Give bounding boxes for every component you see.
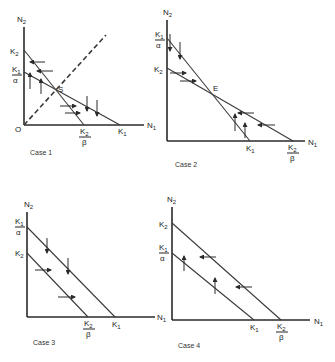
x-tick-k2-beta-den: β: [86, 330, 91, 339]
x-tick-k2-beta-den: β: [82, 138, 87, 147]
x-axis-label: N1: [308, 138, 318, 148]
caption-case-2: Case 2: [175, 161, 197, 168]
y-tick-k1-alpha-num: K1: [159, 243, 168, 253]
y-tick-k1-alpha-den: α: [160, 254, 165, 263]
x-tick-k1: K1: [250, 323, 259, 333]
x-axis-label: N1: [147, 121, 157, 131]
y-axis-label: N2: [24, 200, 34, 210]
competition-isocline-diagrams: N2 N1 O K2 K1 α K2 β K1 S Case 1 N2 N1 K…: [0, 0, 335, 362]
y-tick-k2: K2: [15, 249, 24, 259]
isocline-species-1: [27, 227, 115, 317]
y-tick-k2: K2: [159, 220, 168, 230]
x-tick-k1: K1: [246, 144, 255, 154]
isocline-species-2: [172, 223, 281, 320]
y-tick-k1-alpha-den: α: [16, 228, 21, 237]
caption-case-4: Case 4: [178, 342, 200, 349]
panel-case-1: N2 N1 O K2 K1 α K2 β K1 S Case 1: [10, 15, 157, 156]
y-tick-k2: K2: [10, 47, 19, 57]
y-tick-k1-alpha-num: K1: [15, 217, 24, 227]
x-axis-label: N1: [314, 317, 324, 327]
y-tick-k1-alpha-num: K1: [155, 30, 164, 40]
panel-case-2: N2 N1 K1 α K2 K1 K2 β E Case 2: [154, 8, 318, 168]
origin-label: O: [15, 125, 21, 134]
panel-case-3: N2 N1 K1 α K2 K2 β K1 Case 3: [15, 200, 167, 346]
y-tick-k1-alpha-den: α: [13, 76, 18, 85]
x-tick-k2-beta-num: K2: [277, 322, 286, 332]
isocline-species-1: [24, 72, 120, 125]
caption-case-1: Case 1: [30, 149, 52, 156]
y-tick-k1-alpha-num: K1: [12, 65, 21, 75]
isocline-species-2: [27, 253, 88, 317]
x-tick-k2-beta-num: K2: [80, 127, 89, 137]
x-tick-k2-beta-den: β: [290, 154, 295, 163]
x-axis-label: N1: [157, 313, 167, 323]
isocline-species-2: [167, 68, 293, 141]
x-tick-k1: K1: [118, 127, 127, 137]
x-tick-k2-beta-num: K2: [84, 319, 93, 329]
x-tick-k2-beta-num: K2: [288, 143, 297, 153]
y-axis-label: N2: [17, 15, 27, 25]
caption-case-3: Case 3: [33, 339, 55, 346]
y-tick-k1-alpha-den: α: [156, 41, 161, 50]
y-tick-k2: K2: [154, 65, 163, 75]
panel-case-4: N2 N1 K2 K1 α K1 K2 β Case 4: [159, 195, 324, 349]
isocline-species-1: [167, 38, 250, 141]
x-tick-k2-beta-den: β: [279, 333, 284, 342]
isocline-species-2: [24, 50, 84, 125]
saddle-point-label: S: [58, 85, 63, 94]
diagonal-dashed-line: [24, 35, 106, 125]
equilibrium-point-label: E: [213, 84, 218, 93]
y-axis-label: N2: [163, 8, 173, 18]
x-tick-k1: K1: [112, 320, 121, 330]
y-axis-label: N2: [167, 195, 177, 205]
